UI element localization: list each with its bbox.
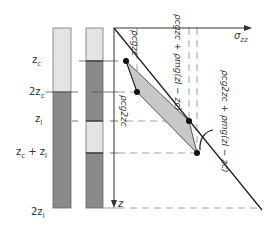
stress-label-rho-c-g-2zc: ρcg2zc [119,95,129,127]
y-axis-label: z [118,198,123,209]
depth-label-2zc: 2zc [29,86,44,100]
stress-label-rho-c-g-zc: ρcgzc [130,30,140,56]
depth-label-zc: zc [32,54,41,68]
stress-label-rho-c-g-zc-plus: ρcgzc + ρmg(zl − zc) [173,14,183,111]
depth-label-zc-plus-zl: zc + zl [16,146,47,160]
shaded-region [126,61,197,153]
column-left [53,28,71,208]
column-right [86,28,103,208]
stress-depth-diagram: σzz z zc 2zc zl zc + zl 2zl ρcgzc ρcg2zc… [0,0,271,232]
depth-label-zl: zl [35,113,42,127]
x-axis-label: σzz [234,30,248,44]
stress-label-rho-c-g-2zc-plus: ρcg2zc + ρmg(zl − zc) [220,70,230,172]
depth-label-2zl: 2zl [31,206,45,220]
